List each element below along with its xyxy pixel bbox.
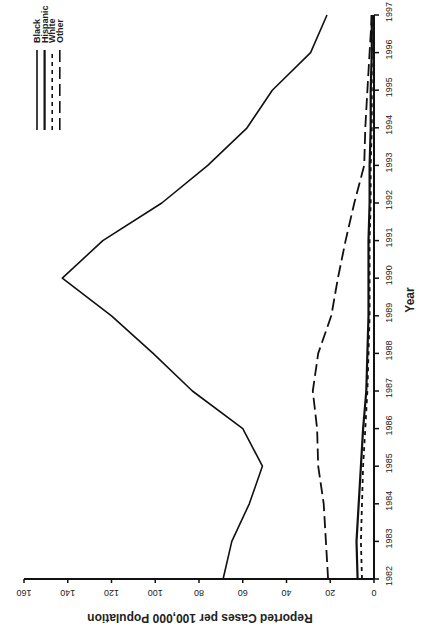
x-tick-label: 1987 (384, 378, 394, 398)
x-tick-label: 1994 (384, 115, 394, 135)
y-tick-label: 20 (325, 588, 335, 598)
y-axis-title: Reported Cases per 100,000 Population (87, 611, 312, 625)
y-axis-ticks: 020406080100120140160 (16, 579, 376, 598)
rotated-chart: 020406080100120140160 198219831984198519… (0, 0, 425, 628)
x-tick-label: 1983 (384, 528, 394, 548)
y-tick-label: 140 (60, 588, 75, 598)
x-tick-label: 1986 (384, 416, 394, 436)
y-tick-label: 160 (16, 588, 31, 598)
legend-label-other: Other (55, 18, 65, 43)
series-black (62, 15, 327, 579)
x-tick-label: 1982 (384, 566, 394, 586)
y-tick-label: 0 (371, 588, 376, 598)
x-tick-label: 1989 (384, 303, 394, 323)
series-other (313, 15, 372, 579)
y-tick-label: 40 (281, 588, 291, 598)
x-tick-label: 1996 (384, 40, 394, 60)
x-tick-label: 1991 (384, 228, 394, 248)
legend: BlackHispanicWhiteOther (32, 5, 65, 130)
x-tick-label: 1992 (384, 190, 394, 210)
y-tick-label: 120 (104, 588, 119, 598)
x-axis-title: Year (403, 287, 417, 313)
x-tick-label: 1988 (384, 340, 394, 360)
x-tick-label: 1993 (384, 152, 394, 172)
y-tick-label: 80 (194, 588, 204, 598)
x-axis-ticks: 1982198319841985198619871988198919901991… (374, 2, 394, 586)
y-tick-label: 60 (238, 588, 248, 598)
x-tick-label: 1995 (384, 77, 394, 97)
x-tick-label: 1984 (384, 491, 394, 511)
series-lines (62, 15, 372, 579)
x-tick-label: 1985 (384, 453, 394, 473)
y-tick-label: 100 (148, 588, 163, 598)
x-tick-label: 1990 (384, 265, 394, 285)
x-tick-label: 1997 (384, 2, 394, 22)
line-chart: 020406080100120140160 198219831984198519… (0, 0, 425, 628)
